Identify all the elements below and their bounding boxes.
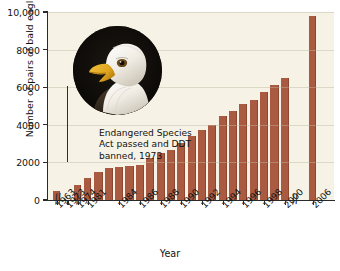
annotation-line-2: Act passed and DDT bbox=[99, 139, 211, 150]
bar-2006 bbox=[309, 16, 316, 200]
y-axis-tick-label: 0 bbox=[34, 195, 40, 206]
x-axis-tick bbox=[181, 201, 182, 205]
y-axis-tick-label: 2000 bbox=[16, 157, 40, 168]
y-axis-tick bbox=[43, 87, 48, 88]
bar-1997 bbox=[250, 100, 258, 200]
bar-1996 bbox=[239, 104, 247, 200]
x-axis-tick bbox=[313, 201, 314, 205]
x-axis-tick bbox=[67, 201, 68, 205]
grid-line bbox=[48, 125, 334, 126]
x-axis-title: Year bbox=[0, 248, 340, 259]
bald-eagle-photo-icon bbox=[73, 26, 162, 115]
y-axis-tick bbox=[43, 124, 48, 125]
x-axis-tick bbox=[243, 201, 244, 205]
bar-1994 bbox=[219, 116, 227, 200]
y-axis-tick bbox=[43, 162, 48, 163]
x-axis-tick bbox=[202, 201, 203, 205]
bar-2000 bbox=[281, 78, 289, 200]
annotation-leader-line bbox=[67, 86, 68, 162]
bar-1999 bbox=[270, 85, 278, 200]
annotation-line-3: banned, 1973 bbox=[99, 151, 211, 162]
x-axis-tick bbox=[223, 201, 224, 205]
x-axis-tick bbox=[88, 201, 89, 205]
grid-line bbox=[48, 12, 334, 13]
x-axis-tick bbox=[119, 201, 120, 205]
y-axis-title: Number of pairs of bald eagles bbox=[24, 0, 35, 149]
y-axis-tick bbox=[43, 199, 48, 200]
y-axis-tick bbox=[43, 49, 48, 50]
grid-line bbox=[48, 162, 334, 163]
x-axis-tick bbox=[285, 201, 286, 205]
x-axis-tick bbox=[161, 201, 162, 205]
annotation-line-1: Endangered Species bbox=[99, 128, 211, 139]
y-axis-tick bbox=[43, 11, 48, 12]
x-axis-tick bbox=[264, 201, 265, 205]
bald-eagle-population-chart: 0200040006000800010,000 Number of pairs … bbox=[0, 0, 340, 271]
x-axis-tick bbox=[140, 201, 141, 205]
annotation-text: Endangered Species Act passed and DDT ba… bbox=[99, 128, 211, 162]
bar-1998 bbox=[260, 92, 268, 200]
